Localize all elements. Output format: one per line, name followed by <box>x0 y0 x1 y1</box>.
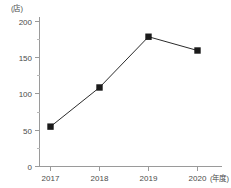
series-marker-2020 <box>194 47 200 53</box>
y-axis-unit-label: (店) <box>11 3 23 13</box>
series-marker-2019 <box>145 34 151 40</box>
y-tick-label-0: 0 <box>28 163 33 172</box>
y-axis-major-ticks <box>35 22 40 167</box>
x-tick-label-2020: 2020 <box>189 174 207 183</box>
x-tick-label-2019: 2019 <box>140 174 158 183</box>
chart-canvas: (店) 200 150 100 50 0 <box>0 0 231 188</box>
x-tick-label-2018: 2018 <box>91 174 109 183</box>
line-chart: (店) 200 150 100 50 0 <box>0 0 231 188</box>
y-tick-label-100: 100 <box>19 90 33 99</box>
y-tick-label-200: 200 <box>19 18 33 27</box>
x-axis-ticks <box>51 167 198 172</box>
y-tick-label-50: 50 <box>23 127 32 136</box>
x-tick-label-2017: 2017 <box>42 174 60 183</box>
series-marker-2017 <box>47 123 53 129</box>
y-tick-label-150: 150 <box>19 54 33 63</box>
series-marker-2018 <box>96 84 102 90</box>
x-axis-unit-label: (年度) <box>210 173 229 183</box>
series-markers <box>47 34 200 130</box>
series-line <box>51 37 198 127</box>
